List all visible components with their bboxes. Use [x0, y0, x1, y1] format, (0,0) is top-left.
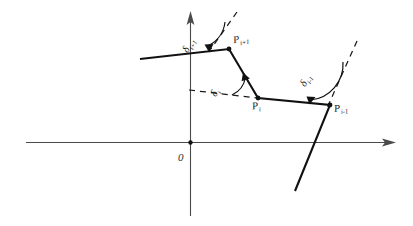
label-p-i-plus-1: Pi+1	[232, 33, 249, 46]
angle-arrowhead-delta-i-icon	[242, 73, 250, 82]
figure-canvas: δi+1 δi δi-1 Pi+1 Pi Pi-1 0	[0, 0, 413, 226]
label-origin: 0	[178, 152, 184, 163]
origin-dot	[188, 140, 192, 144]
label-p-i: Pi	[251, 100, 260, 111]
label-p-i-minus-1: Pi-1	[333, 102, 348, 114]
angle-arc-delta-i-minus-1	[311, 62, 344, 100]
label-p-i-minus-1-sub: i-1	[340, 107, 348, 115]
angle-arcs-group	[205, 22, 344, 105]
polyline-group	[140, 47, 332, 191]
label-p-i-plus-1-sub: i+1	[239, 37, 250, 46]
vertex-dot-p-i-plus-1	[227, 47, 232, 52]
angle-arc-delta-i-plus-1	[209, 22, 226, 46]
guide-line-delta-i	[189, 90, 257, 98]
vertex-dot-p-i-minus-1	[328, 103, 333, 108]
figure-drawing	[0, 0, 413, 226]
polyline-path	[140, 49, 330, 191]
